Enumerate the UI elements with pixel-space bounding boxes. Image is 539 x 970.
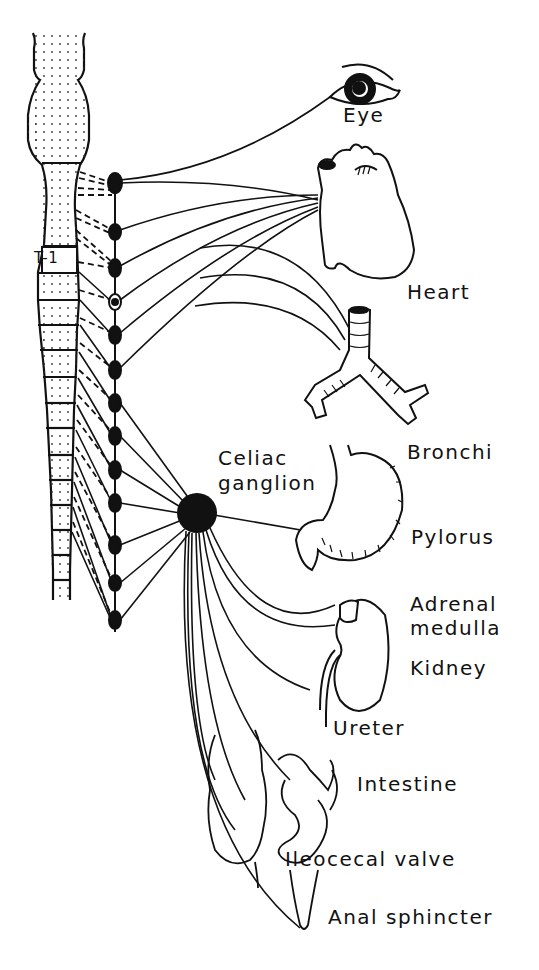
label-ureter: Ureter (333, 717, 405, 740)
bronchi-illustration (305, 307, 428, 424)
label-eye: Eye (343, 104, 384, 127)
label-heart: Heart (407, 281, 470, 304)
kidney-illustration (320, 600, 389, 727)
label-pylorus: Pylorus (411, 526, 495, 549)
celiac-ganglion (177, 493, 217, 533)
spine-segment-label: T-1 (34, 249, 58, 267)
label-anal-sphincter: Anal sphincter (328, 906, 493, 929)
eye-illustration (330, 64, 400, 104)
label-kidney: Kidney (410, 657, 487, 680)
label-celiac-line2: ganglion (218, 472, 316, 495)
stomach-illustration (296, 445, 402, 570)
heart-illustration (318, 144, 414, 278)
sympathetic-chain (108, 173, 122, 632)
label-adrenal-line2: medulla (410, 617, 501, 640)
label-ileocecal-valve: Ileocecal valve (285, 848, 456, 871)
spinal-cord (28, 33, 89, 600)
label-adrenal-line1: Adrenal (410, 593, 497, 616)
label-bronchi: Bronchi (407, 441, 493, 464)
label-celiac-line1: Celiac (218, 447, 288, 470)
label-intestine: Intestine (357, 773, 458, 796)
postganglionic-fibers-upper (120, 97, 350, 368)
